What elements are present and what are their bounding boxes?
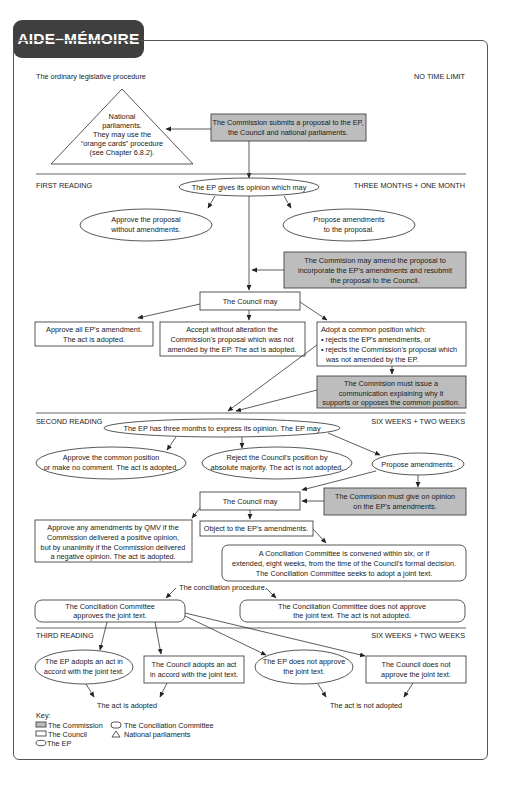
svg-text:National parliaments: National parliaments bbox=[124, 730, 191, 739]
svg-text:the joint text. The act is not: the joint text. The act is not adopted. bbox=[293, 611, 411, 620]
svg-text:but by unanimity if the Commis: but by unanimity if the Commission deliv… bbox=[41, 543, 186, 552]
third-reading-label: THIRD READING bbox=[36, 631, 94, 640]
procedure-title: The ordinary legislative procedure bbox=[36, 72, 146, 81]
svg-text:The Conciliation Committee: The Conciliation Committee bbox=[124, 721, 214, 730]
svg-text:accord with the joint text.: accord with the joint text. bbox=[44, 667, 124, 676]
svg-text:to the proposal.: to the proposal. bbox=[324, 225, 374, 234]
svg-text:Object to the EP's amendments.: Object to the EP's amendments. bbox=[204, 524, 308, 533]
act-not-adopted-label: The act is not adopted bbox=[330, 701, 402, 710]
ep-key-icon bbox=[36, 740, 46, 745]
svg-text:The act is adopted.: The act is adopted. bbox=[63, 335, 125, 344]
svg-text:The Conciliation Committee doe: The Conciliation Committee does not appr… bbox=[278, 602, 426, 611]
svg-text:the proposal to the Council.: the proposal to the Council. bbox=[331, 276, 420, 285]
svg-text:approve the joint text.: approve the joint text. bbox=[381, 670, 451, 679]
svg-text:supports or opposes the common: supports or opposes the common position. bbox=[322, 398, 460, 407]
svg-text:Adopt a common position which:: Adopt a common position which: bbox=[321, 325, 426, 334]
svg-text:parliaments.: parliaments. bbox=[102, 121, 142, 130]
svg-text:• rejects the EP's amendments,: • rejects the EP's amendments, or bbox=[321, 335, 431, 344]
legend: Key: The Commission The Council The EP T… bbox=[36, 711, 214, 748]
svg-text:The Council: The Council bbox=[48, 730, 87, 739]
flowchart: The ordinary legislative procedure NO TI… bbox=[0, 0, 508, 785]
national-parliaments-key-icon bbox=[112, 731, 120, 737]
svg-text:on the EP's amendments.: on the EP's amendments. bbox=[353, 502, 436, 511]
svg-text:The Council does not: The Council does not bbox=[382, 660, 451, 669]
svg-text:• rejects the Commission's pro: • rejects the Commission's proposal whic… bbox=[321, 345, 457, 354]
svg-text:incorporate the EP's amendment: incorporate the EP's amendments and resu… bbox=[298, 266, 452, 275]
svg-text:The EP: The EP bbox=[47, 739, 71, 748]
svg-text:Approve all EP's amendment.: Approve all EP's amendment. bbox=[46, 325, 142, 334]
svg-text:approves the joint text.: approves the joint text. bbox=[73, 611, 146, 620]
svg-text:without amendments.: without amendments. bbox=[110, 225, 180, 234]
commission-submits-text: The Commission submits a proposal to the… bbox=[212, 118, 363, 127]
svg-text:Commission's proposal which wa: Commission's proposal which was not bbox=[170, 335, 293, 344]
svg-text:Approve any amendments by QMV: Approve any amendments by QMV if the bbox=[47, 523, 178, 532]
svg-text:in accord with the joint text.: in accord with the joint text. bbox=[150, 670, 238, 679]
svg-text:Commission delivered a positiv: Commission delivered a positive opinion, bbox=[47, 533, 179, 542]
svg-text:Key:: Key: bbox=[36, 711, 51, 720]
svg-text:Approve the common position: Approve the common position bbox=[63, 453, 160, 462]
first-reading-label: FIRST READING bbox=[36, 181, 93, 190]
svg-text:(see Chapter 6.8.2).: (see Chapter 6.8.2). bbox=[90, 148, 155, 157]
commission-key-icon bbox=[36, 722, 46, 727]
svg-text:The Council adopts an act: The Council adopts an act bbox=[152, 660, 237, 669]
svg-text:“orange cards” procedure: “orange cards” procedure bbox=[81, 139, 163, 148]
first-reading-time: THREE MONTHS + ONE MONTH bbox=[354, 181, 465, 190]
act-adopted-label: The act is adopted bbox=[97, 701, 157, 710]
svg-text:the joint text.: the joint text. bbox=[283, 667, 324, 676]
triangle-text: National parliaments. They may use the “… bbox=[81, 112, 163, 157]
no-time-limit-label: NO TIME LIMIT bbox=[414, 72, 465, 81]
svg-text:or make no comment. The act is: or make no comment. The act is adopted. bbox=[44, 463, 179, 472]
svg-text:A Conciliation Committee is co: A Conciliation Committee is convened wit… bbox=[259, 549, 430, 558]
svg-text:Approve the proposal: Approve the proposal bbox=[111, 215, 181, 224]
svg-text:The EP has three months to exp: The EP has three months to express its o… bbox=[123, 424, 320, 433]
svg-text:The Commision must issue a: The Commision must issue a bbox=[344, 379, 439, 388]
svg-text:amended by the EP. The act is: amended by the EP. The act is adopted. bbox=[167, 345, 296, 354]
commission-submits-text: the Council and national parliaments. bbox=[228, 128, 348, 137]
third-reading-time: SIX WEEKS + TWO WEEKS bbox=[371, 631, 465, 640]
svg-text:Propose amendments: Propose amendments bbox=[313, 215, 385, 224]
svg-text:The Conciliation Committee: The Conciliation Committee bbox=[65, 602, 155, 611]
svg-text:The Council may: The Council may bbox=[223, 497, 278, 506]
second-reading-label: SECOND READING bbox=[36, 417, 103, 426]
svg-text:National: National bbox=[109, 112, 136, 121]
conciliation-procedure-label: The conciliation procedure. bbox=[179, 583, 267, 592]
conciliation-key-icon bbox=[111, 722, 121, 728]
svg-text:They may use the: They may use the bbox=[93, 130, 151, 139]
svg-text:The EP adopts an act in: The EP adopts an act in bbox=[45, 657, 123, 666]
svg-text:The Commision must give on opi: The Commision must give on opinion bbox=[335, 492, 455, 501]
svg-text:The Commision may amend the pr: The Commision may amend the proposal to bbox=[304, 256, 446, 265]
svg-text:was not amended by the EP.: was not amended by the EP. bbox=[325, 355, 418, 364]
svg-text:a negative opinion. The act is: a negative opinion. The act is adopted. bbox=[50, 552, 175, 561]
svg-text:absolute majority. The act is: absolute majority. The act is not adopte… bbox=[211, 463, 344, 472]
svg-text:The Council may: The Council may bbox=[223, 297, 278, 306]
council-key-icon bbox=[36, 731, 46, 736]
svg-text:extended, eight weeks, from th: extended, eight weeks, from the time of … bbox=[232, 559, 456, 568]
svg-text:Reject the Council's position: Reject the Council's position by bbox=[226, 453, 328, 462]
svg-text:The Conciliation Committee see: The Conciliation Committee seeks to adop… bbox=[256, 569, 432, 578]
svg-text:The EP does not approve: The EP does not approve bbox=[263, 657, 346, 666]
second-reading-time: SIX WEEKS + TWO WEEKS bbox=[371, 417, 465, 426]
svg-text:The Commission: The Commission bbox=[48, 721, 103, 730]
ep-opinion-text: The EP gives its opinion which may bbox=[192, 183, 307, 192]
svg-text:Propose amendments.: Propose amendments. bbox=[381, 460, 454, 469]
svg-text:Accept without alteration the: Accept without alteration the bbox=[186, 325, 278, 334]
svg-text:communication explaining why i: communication explaining why it bbox=[339, 389, 444, 398]
